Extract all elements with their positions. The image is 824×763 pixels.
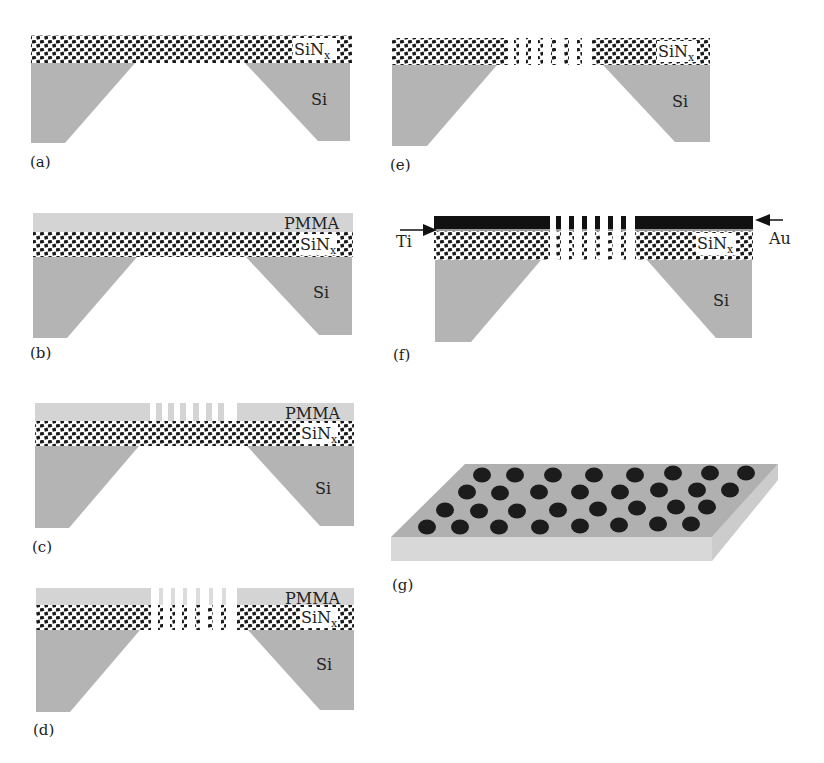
si-substrate-right (603, 65, 710, 142)
panel-label-d: (d) (33, 721, 54, 739)
si-substrate-left (33, 257, 137, 338)
pmma-label: PMMA (284, 214, 340, 233)
pmma-layer-left (36, 588, 151, 605)
si-substrate-right (247, 446, 354, 526)
sinx-etched-pillars (514, 38, 582, 65)
panel-g: (g) (391, 464, 778, 594)
si-substrate-left (435, 260, 541, 342)
pmma-label: PMMA (285, 589, 341, 608)
au-label: Au (768, 229, 791, 248)
ti-label: Ti (396, 232, 412, 251)
au-ti-pillars (556, 216, 626, 231)
au-layer-left (434, 216, 550, 229)
pmma-layer-left (35, 403, 150, 421)
fabrication-diagram: SiNx Si (a) PMMA SiNx Si (b) PMMA SiNx (0, 0, 824, 763)
panel-label-b: (b) (30, 344, 51, 362)
sinx-etched-pillars (556, 231, 626, 260)
sinx-layer-left (434, 231, 550, 260)
si-label: Si (316, 655, 332, 674)
si-substrate-right (647, 260, 752, 338)
pmma-pattern (156, 403, 224, 421)
si-substrate-right (245, 63, 350, 141)
si-label: Si (313, 283, 329, 302)
si-substrate-right (248, 630, 354, 710)
au-arrow-icon (755, 214, 783, 226)
pmma-pattern (159, 588, 226, 605)
si-label: Si (315, 479, 331, 498)
si-substrate-left (36, 630, 140, 712)
panel-f: SiNx Si Ti Au (f) (393, 214, 791, 364)
panel-d: PMMA SiNx Si (d) (33, 588, 354, 739)
panel-b: PMMA SiNx Si (b) (30, 213, 353, 362)
pmma-label: PMMA (285, 404, 341, 423)
slab-front-face (391, 537, 712, 561)
sinx-layer-left (36, 605, 151, 630)
panel-label-e: (e) (390, 156, 411, 174)
panel-label-g: (g) (392, 576, 413, 594)
panel-label-a: (a) (30, 153, 51, 171)
si-label: Si (672, 92, 688, 111)
si-label: Si (311, 90, 327, 109)
ti-layer-right (635, 229, 753, 231)
si-substrate-left (31, 63, 135, 143)
si-substrate-left (392, 65, 497, 146)
panel-label-f: (f) (393, 346, 410, 364)
sinx-layer-left (392, 38, 508, 65)
au-layer-right (635, 216, 753, 229)
panel-a: SiNx Si (a) (30, 35, 352, 171)
panel-label-c: (c) (32, 538, 52, 556)
si-label: Si (713, 291, 729, 310)
si-substrate-right (246, 257, 352, 335)
sinx-etched-pillars (158, 605, 226, 630)
panel-c: PMMA SiNx Si (c) (32, 403, 354, 556)
panel-e: SiNx Si (e) (390, 38, 710, 174)
ti-layer-left (434, 229, 550, 231)
si-substrate-left (35, 446, 139, 528)
